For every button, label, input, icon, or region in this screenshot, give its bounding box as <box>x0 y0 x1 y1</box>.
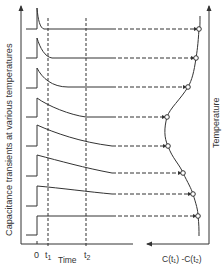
x-axis-label: Time <box>58 255 77 265</box>
transient-3 <box>26 68 185 88</box>
tick-label-t1: t1 <box>45 250 52 261</box>
left-axis-label: Capacitance transients at various temper… <box>4 43 14 236</box>
transient-4 <box>26 98 164 117</box>
difference-axis-label: C(t₁) -C(t₂) <box>162 254 202 264</box>
right-axis-label: Temperature <box>211 97 221 148</box>
transient-6 <box>26 155 180 176</box>
data-points <box>165 27 202 219</box>
transient-8 <box>26 216 195 235</box>
transient-2 <box>26 38 193 58</box>
dlts-peak-curve <box>165 16 200 236</box>
transient-1 <box>26 8 196 29</box>
tick-label-t2: t2 <box>84 250 91 261</box>
transient-7 <box>26 186 190 206</box>
dlts-diagram: Capacitance transients at various temper… <box>0 0 223 271</box>
tick-label-zero: 0 <box>34 250 39 260</box>
transient-5 <box>26 125 165 146</box>
